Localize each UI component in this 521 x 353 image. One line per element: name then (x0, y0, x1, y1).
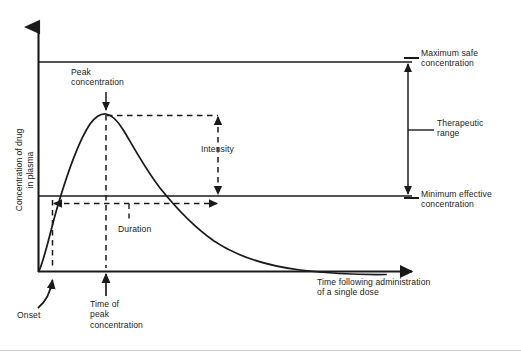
page-edge-artifact (0, 350, 521, 351)
peak-concentration-label: Peak concentration (71, 67, 171, 88)
duration-label: Duration (118, 224, 178, 234)
intensity-label: Intensity (201, 144, 261, 154)
x-axis-title: Time following administration of a singl… (317, 277, 487, 298)
onset-pointer-curved-arrow (38, 280, 53, 308)
minimum-effective-concentration-label: Minimum effective concentration (421, 189, 520, 210)
onset-label: Onset (17, 310, 67, 320)
maximum-safe-concentration-label: Maximum safe concentration (421, 48, 519, 69)
y-axis-title: Concentration of drug in plasma (14, 90, 35, 250)
therapeutic-range-label: Therapeutic range (437, 118, 517, 139)
plasma-concentration-curve (39, 114, 386, 275)
time-of-peak-concentration-label: Time of peak concentration (90, 299, 180, 330)
